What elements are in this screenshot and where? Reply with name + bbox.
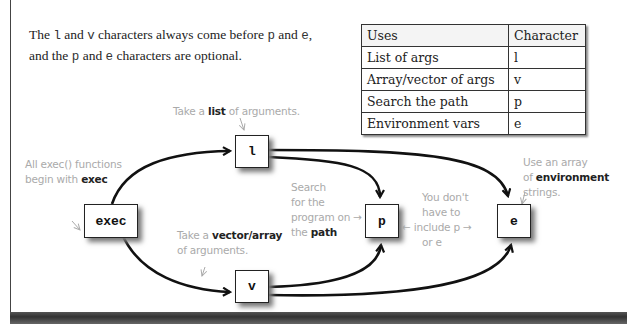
node-p-label: p [378,214,386,229]
note-environment: Use an array of environment strings. [523,155,609,200]
note-vector: Take a vector/array of arguments. [177,228,282,258]
node-p: p [365,204,399,238]
arrow-v-to-e [268,245,511,295]
node-e: e [497,204,531,238]
arrow-exec-to-l [112,151,230,204]
node-v: v [235,270,269,303]
node-l-label: l [248,144,256,159]
node-exec-label: exec [95,214,126,229]
node-e-label: e [510,214,518,229]
arrow-v-to-p [268,245,381,287]
node-v-label: v [248,279,256,294]
note-exec: All exec() functions begin with exec [25,157,122,187]
note-path: Search for the program on → the path [291,180,362,240]
node-exec: exec [84,204,138,238]
node-l: l [235,135,269,168]
note-optional: You don't have to ← include p → or e [402,190,472,250]
note-list: Take a list of arguments. [173,104,300,119]
